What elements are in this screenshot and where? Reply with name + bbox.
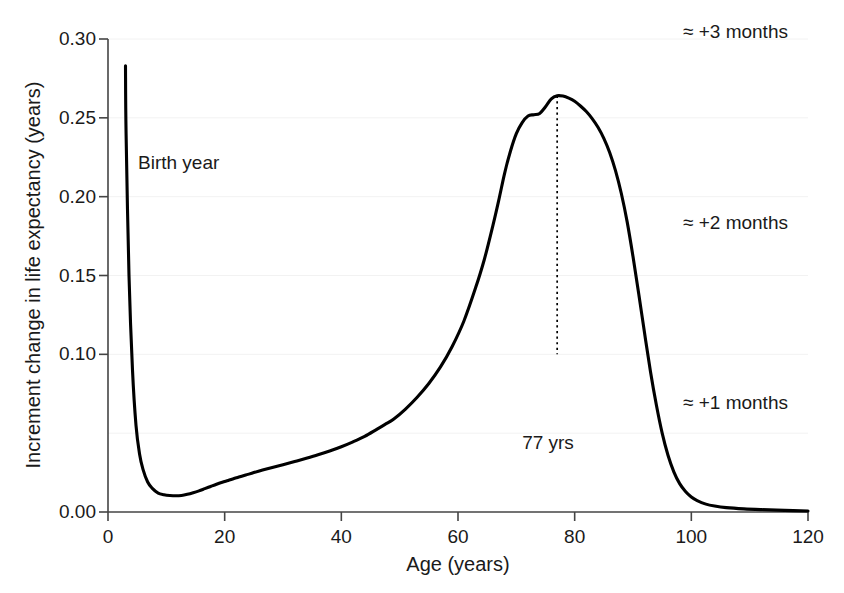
annotation-months-3: ≈ +3 months [683, 21, 788, 43]
annotation-months-2: ≈ +2 months [683, 212, 788, 234]
chart-figure: 0.000.100.150.200.250.30 020406080100120… [0, 0, 844, 593]
annotation-months-1: ≈ +1 months [683, 392, 788, 414]
x-tick-label: 60 [447, 526, 468, 548]
x-tick-label: 80 [564, 526, 585, 548]
gridlines [108, 39, 808, 433]
annotation-birth-year: Birth year [138, 152, 219, 174]
x-axis-ticks [108, 512, 808, 521]
x-tick-label: 100 [675, 526, 707, 548]
annotation-peak-age: 77 yrs [522, 432, 574, 454]
plot-canvas [0, 0, 844, 593]
x-axis-title: Age (years) [406, 553, 509, 576]
y-axis-title: Increment change in life expectancy (yea… [22, 10, 52, 540]
x-tick-label: 40 [331, 526, 352, 548]
x-tick-label: 120 [792, 526, 824, 548]
x-tick-label: 0 [103, 526, 114, 548]
x-tick-label: 20 [214, 526, 235, 548]
data-series-line [126, 66, 809, 511]
y-axis-ticks [99, 39, 108, 512]
